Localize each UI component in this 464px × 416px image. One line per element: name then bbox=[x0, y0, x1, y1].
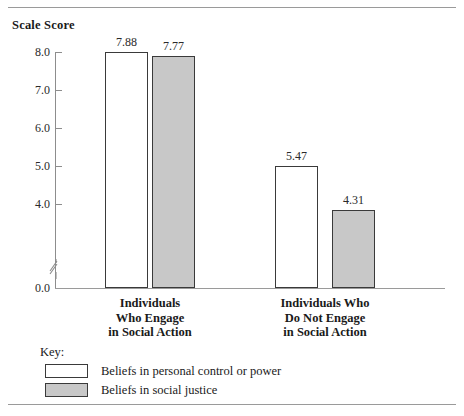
y-tick-label-8-wrap: 8.0 bbox=[14, 46, 50, 58]
y-tick-label-5-wrap: 5.0 bbox=[14, 160, 50, 172]
y-tick-mark-5 bbox=[56, 166, 62, 167]
bar-group1-series1 bbox=[105, 52, 148, 288]
legend-label-social-justice: Beliefs in social justice bbox=[101, 383, 217, 397]
y-tick-label-4-wrap: 4.0 bbox=[14, 198, 50, 210]
y-axis-break-icon bbox=[48, 258, 64, 280]
y-tick-label-0: 0.0 bbox=[16, 282, 50, 294]
bar-chart-figure: Scale Score 8.0 7.0 6.0 5.0 4.0 0.0 bbox=[0, 0, 464, 416]
category-label-2-line2: Do Not Engage bbox=[255, 311, 395, 326]
x-axis-line bbox=[55, 288, 445, 289]
y-tick-label-7: 7.0 bbox=[16, 84, 50, 96]
y-tick-label-4: 4.0 bbox=[16, 198, 50, 210]
bar-value-group2-series2: 4.31 bbox=[322, 194, 385, 206]
category-label-1-line1: Individuals bbox=[80, 296, 220, 311]
category-label-1-line2: Who Engage bbox=[80, 311, 220, 326]
y-axis-line bbox=[55, 52, 56, 288]
bar-group2-series2 bbox=[332, 210, 375, 288]
y-tick-label-8: 8.0 bbox=[16, 46, 50, 58]
bar-value-group2-series1: 5.47 bbox=[265, 150, 328, 162]
y-tick-label-0-wrap: 0.0 bbox=[14, 282, 50, 294]
legend-swatch-gray bbox=[45, 383, 88, 397]
bar-value-group1-series2: 7.77 bbox=[142, 40, 205, 52]
legend-swatch-white bbox=[45, 364, 88, 378]
bottom-rule bbox=[8, 404, 456, 405]
category-label-1: Individuals Who Engage in Social Action bbox=[80, 296, 220, 340]
category-label-1-line3: in Social Action bbox=[80, 325, 220, 340]
category-label-2: Individuals Who Do Not Engage in Social … bbox=[255, 296, 395, 340]
y-tick-mark-6 bbox=[56, 128, 62, 129]
y-tick-label-6: 6.0 bbox=[16, 122, 50, 134]
y-tick-mark-4 bbox=[56, 204, 62, 205]
legend-title: Key: bbox=[40, 346, 64, 359]
y-tick-mark-7 bbox=[56, 90, 62, 91]
category-label-2-line1: Individuals Who bbox=[255, 296, 395, 311]
legend-label-personal-control: Beliefs in personal control or power bbox=[101, 364, 281, 378]
y-tick-label-5: 5.0 bbox=[16, 160, 50, 172]
plot-area: 8.0 7.0 6.0 5.0 4.0 0.0 7.88 7 bbox=[0, 0, 464, 300]
bar-group1-series2 bbox=[152, 56, 195, 288]
category-label-2-line3: in Social Action bbox=[255, 325, 395, 340]
bar-group2-series1 bbox=[275, 166, 318, 288]
y-tick-mark-8 bbox=[56, 52, 62, 53]
y-tick-label-7-wrap: 7.0 bbox=[14, 84, 50, 96]
y-tick-label-6-wrap: 6.0 bbox=[14, 122, 50, 134]
